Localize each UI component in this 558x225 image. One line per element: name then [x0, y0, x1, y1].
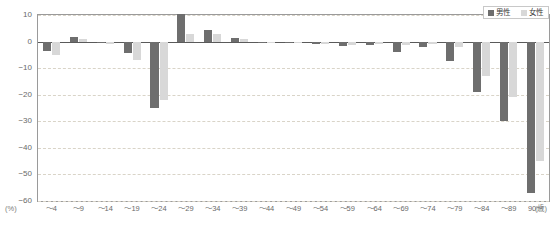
bar-female	[482, 42, 490, 77]
bar-male	[258, 42, 266, 43]
bar-female	[213, 34, 221, 42]
bar-male	[150, 42, 158, 108]
bar-male	[419, 42, 427, 48]
bar-male	[97, 42, 105, 44]
bar-female	[52, 42, 60, 55]
legend-swatch-male-icon	[488, 10, 494, 16]
bar-female	[402, 42, 410, 45]
bar-male	[231, 38, 239, 41]
bar-male	[527, 42, 535, 193]
bar-male	[393, 42, 401, 52]
bar-male	[177, 14, 185, 42]
bar-female	[79, 39, 87, 41]
chart-root: 100−10−20−30−40−50−60 ～4～9～14～19～24～29～3…	[0, 0, 558, 225]
bar-female	[186, 34, 194, 41]
bar-male	[43, 42, 51, 51]
bar-female	[240, 39, 248, 42]
bar-female	[321, 42, 329, 44]
chart-legend: 男性 女性	[483, 6, 549, 19]
bar-female	[294, 42, 302, 43]
gridline	[38, 174, 549, 175]
bar-female	[428, 42, 436, 44]
bar-male	[312, 42, 320, 45]
gridline	[38, 95, 549, 96]
bar-male	[500, 42, 508, 122]
clipped-caption-strip	[0, 0, 558, 7]
gridline	[38, 15, 549, 16]
legend-swatch-female-icon	[521, 10, 527, 16]
y-axis-tick-label: 10	[2, 11, 32, 19]
legend-label-male: 男性	[496, 9, 510, 17]
bar-male	[204, 30, 212, 41]
gridline	[38, 148, 549, 149]
bar-female	[160, 42, 168, 100]
y-axis-tick-label: −10	[2, 64, 32, 72]
bar-male	[339, 42, 347, 46]
gridline	[38, 201, 549, 202]
bar-female	[106, 42, 114, 45]
bar-male	[473, 42, 481, 92]
bar-female	[267, 42, 275, 43]
bar-female	[133, 42, 141, 61]
bar-female	[455, 42, 463, 48]
bar-male	[446, 42, 454, 62]
gridline	[38, 121, 549, 122]
y-axis-tick-label: −30	[2, 117, 32, 125]
bar-female	[536, 42, 544, 162]
bar-female	[509, 42, 517, 98]
x-axis-unit-label: (歳)	[535, 205, 547, 213]
bar-male	[124, 42, 132, 53]
bar-male	[285, 42, 293, 44]
bar-female	[348, 42, 356, 45]
legend-item-male: 男性	[488, 9, 510, 17]
y-axis-tick-label: 0	[2, 38, 32, 46]
bar-female	[375, 42, 383, 45]
y-axis-tick-label: −20	[2, 91, 32, 99]
bar-male	[366, 42, 374, 45]
y-axis-unit-label: (%)	[5, 205, 17, 213]
legend-item-female: 女性	[521, 9, 543, 17]
y-axis-tick-label: −50	[2, 170, 32, 178]
bar-male	[70, 37, 78, 42]
legend-label-female: 女性	[529, 9, 543, 17]
y-axis-tick-label: −40	[2, 144, 32, 152]
